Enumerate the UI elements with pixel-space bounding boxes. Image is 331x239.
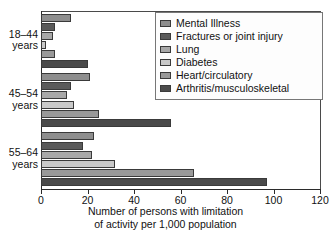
legend-color-swatch: [160, 33, 171, 40]
bar[interactable]: [41, 142, 83, 150]
y-axis-group-label: 55–64years: [0, 147, 38, 170]
x-axis-title-line1: Number of persons with limitation: [0, 205, 331, 218]
bar[interactable]: [41, 178, 267, 186]
legend-color-swatch: [160, 20, 171, 27]
legend-item[interactable]: Diabetes: [160, 56, 317, 69]
bar[interactable]: [41, 82, 71, 90]
legend-item-label: Mental Illness: [176, 18, 240, 29]
legend-item[interactable]: Lung: [160, 43, 317, 56]
bar[interactable]: [41, 73, 90, 81]
legend-item[interactable]: Mental Illness: [160, 17, 317, 30]
legend-color-swatch: [160, 72, 171, 79]
legend-item-label: Arthritis/musculoskeletal: [176, 83, 289, 94]
y-group-label-unit: years: [0, 159, 38, 171]
bar[interactable]: [41, 23, 55, 31]
y-group-label-range: 45–54: [0, 88, 38, 100]
legend-color-swatch: [160, 85, 171, 92]
bar[interactable]: [41, 151, 92, 159]
bar[interactable]: [41, 50, 55, 58]
legend-item-label: Diabetes: [176, 57, 217, 68]
legend-item-label: Heart/circulatory: [176, 70, 252, 81]
bar[interactable]: [41, 119, 171, 127]
bar[interactable]: [41, 160, 115, 168]
bar[interactable]: [41, 60, 88, 68]
bar[interactable]: [41, 14, 71, 22]
x-axis-title: Number of persons with limitation of act…: [0, 205, 331, 231]
legend: Mental IllnessFractures or joint injuryL…: [155, 12, 323, 100]
bar-chart: 020406080100120 18–44years45–54years55–6…: [0, 0, 331, 239]
bar[interactable]: [41, 101, 74, 109]
bar[interactable]: [41, 110, 99, 118]
legend-color-swatch: [160, 59, 171, 66]
y-group-label-unit: years: [0, 40, 38, 52]
legend-color-swatch: [160, 46, 171, 53]
legend-item[interactable]: Arthritis/musculoskeletal: [160, 82, 317, 95]
x-axis-title-line2: of activity per 1,000 population: [0, 218, 331, 231]
legend-item[interactable]: Fractures or joint injury: [160, 30, 317, 43]
y-axis-group-label: 45–54years: [0, 88, 38, 111]
bar[interactable]: [41, 169, 194, 177]
legend-item[interactable]: Heart/circulatory: [160, 69, 317, 82]
legend-item-label: Fractures or joint injury: [176, 31, 283, 42]
y-group-label-unit: years: [0, 100, 38, 112]
bar[interactable]: [41, 32, 53, 40]
bar[interactable]: [41, 91, 67, 99]
y-axis-group-label: 18–44years: [0, 29, 38, 52]
bar[interactable]: [41, 41, 46, 49]
legend-item-label: Lung: [176, 44, 199, 55]
bar[interactable]: [41, 132, 94, 140]
